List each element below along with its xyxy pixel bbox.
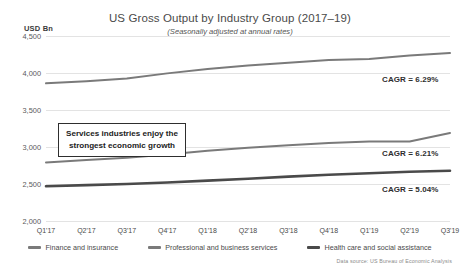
chart-legend: Finance and insuranceProfessional and bu… <box>0 243 460 252</box>
callout-line-2: strongest economic growth <box>66 140 178 152</box>
x-axis-tick: Q3'19 <box>441 227 459 234</box>
gridline <box>46 221 450 222</box>
legend-item[interactable]: Health care and social assistance <box>307 243 431 252</box>
callout-box: Services industries enjoy the strongest … <box>58 123 186 156</box>
legend-label: Professional and business services <box>165 243 277 252</box>
legend-label: Finance and insurance <box>45 243 118 252</box>
legend-swatch-icon <box>307 246 320 249</box>
x-axis-tick: Q1'18 <box>198 227 216 234</box>
x-axis-tick: Q4'17 <box>158 227 176 234</box>
legend-swatch-icon <box>148 246 161 249</box>
y-axis-tick: 2,500 <box>23 180 42 189</box>
legend-item[interactable]: Finance and insurance <box>28 243 118 252</box>
x-axis-tick: Q1'19 <box>360 227 378 234</box>
y-axis-tick: 4,000 <box>23 69 42 78</box>
legend-swatch-icon <box>28 246 41 249</box>
callout-line-1: Services industries enjoy the <box>66 128 178 140</box>
x-axis-tick: Q2'17 <box>77 227 95 234</box>
x-axis-tick: Q3'17 <box>118 227 136 234</box>
chart-subtitle: (Seasonally adjusted at annual rates) <box>0 27 460 36</box>
x-axis-tick: Q1'17 <box>37 227 55 234</box>
y-axis-tick: 4,500 <box>23 32 42 41</box>
chart-container: USD Bn US Gross Output by Industry Group… <box>0 0 460 277</box>
legend-item[interactable]: Professional and business services <box>148 243 277 252</box>
cagr-professional-label: CAGR = 6.21% <box>382 149 439 158</box>
y-axis-tick: 3,000 <box>23 143 42 152</box>
cagr-healthcare-label: CAGR = 5.04% <box>382 185 439 194</box>
x-axis-tick: Q3'18 <box>279 227 297 234</box>
x-axis-tick: Q2'19 <box>400 227 418 234</box>
y-axis-tick: 3,500 <box>23 106 42 115</box>
legend-label: Health care and social assistance <box>324 243 431 252</box>
source-note: Data source: US Bureau of Economic Analy… <box>337 258 452 264</box>
y-axis-tick: 2,000 <box>23 217 42 226</box>
chart-title: US Gross Output by Industry Group (2017–… <box>0 12 460 24</box>
x-axis-tick: Q2'18 <box>239 227 257 234</box>
x-axis-tick: Q4'18 <box>320 227 338 234</box>
cagr-finance-label: CAGR = 6.29% <box>382 75 439 84</box>
